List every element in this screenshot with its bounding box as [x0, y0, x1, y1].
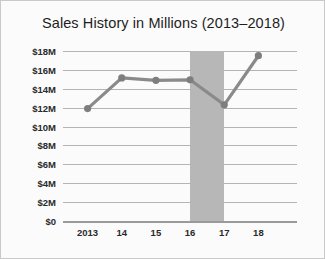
- sales-line-series: [63, 51, 297, 221]
- data-point-marker: [186, 76, 193, 83]
- y-axis-tick-label: $6M: [4, 159, 56, 170]
- chart-title: Sales History in Millions (2013–2018): [1, 15, 325, 31]
- y-axis-tick-label: $12M: [4, 102, 56, 113]
- y-axis-tick-label: $14M: [4, 83, 56, 94]
- y-axis-tick-label: $8M: [4, 140, 56, 151]
- data-point-marker: [118, 74, 125, 81]
- y-axis-tick-label: $0: [4, 216, 56, 227]
- data-point-marker: [255, 52, 262, 59]
- y-axis-tick-label: $2M: [4, 197, 56, 208]
- x-axis-line: [63, 221, 297, 223]
- y-axis-tick-label: $16M: [4, 64, 56, 75]
- data-point-marker: [221, 101, 228, 108]
- y-axis-tick-label: $10M: [4, 121, 56, 132]
- x-axis-tick-label: 18: [238, 227, 278, 238]
- y-axis-tick-label: $4M: [4, 178, 56, 189]
- chart-container: Sales History in Millions (2013–2018) $0…: [0, 0, 325, 259]
- data-point-marker: [152, 77, 159, 84]
- data-point-marker: [84, 105, 91, 112]
- plot-area: [63, 51, 297, 221]
- y-axis-tick-label: $18M: [4, 46, 56, 57]
